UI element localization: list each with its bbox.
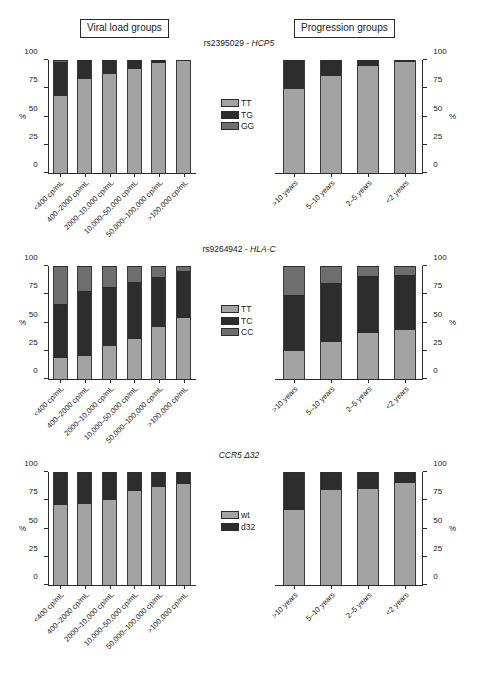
legend-item[interactable]: d32 <box>221 523 255 532</box>
stacked-bar[interactable] <box>320 266 342 379</box>
bar-segment-tt[interactable] <box>177 61 190 173</box>
bar-segment-tt[interactable] <box>152 327 165 379</box>
bar-segment-tc[interactable] <box>128 282 141 340</box>
bar-segment-tt[interactable] <box>358 333 378 379</box>
bar-segment-cc[interactable] <box>152 266 165 277</box>
bar-segment-tc[interactable] <box>103 287 116 346</box>
bar-segment-tc[interactable] <box>54 304 67 357</box>
stacked-bar[interactable] <box>102 60 117 173</box>
stacked-bar[interactable] <box>283 266 305 379</box>
legend-item[interactable]: GG <box>221 122 254 131</box>
stacked-bar[interactable] <box>320 60 342 173</box>
bar-segment-cc[interactable] <box>103 266 116 287</box>
bar-segment-tt[interactable] <box>103 74 116 173</box>
stacked-bar[interactable] <box>151 60 166 173</box>
bar-segment-tt[interactable] <box>177 318 190 379</box>
bar-segment-cc[interactable] <box>128 266 141 282</box>
bar-segment-d32[interactable] <box>395 472 415 483</box>
bar-segment-d32[interactable] <box>54 472 67 505</box>
legend-item[interactable]: wt <box>221 511 255 520</box>
bar-segment-tt[interactable] <box>54 96 67 173</box>
stacked-bar[interactable] <box>77 266 92 379</box>
bar-segment-wt[interactable] <box>103 500 116 585</box>
bar-segment-tc[interactable] <box>321 283 341 342</box>
bar-segment-tg[interactable] <box>321 60 341 76</box>
bar-segment-tc[interactable] <box>177 271 190 318</box>
bar-segment-tc[interactable] <box>152 277 165 327</box>
bar-segment-tc[interactable] <box>284 295 304 350</box>
stacked-bar[interactable] <box>394 60 416 173</box>
bar-segment-tc[interactable] <box>78 291 91 357</box>
bar-segment-tt[interactable] <box>128 339 141 379</box>
stacked-bar[interactable] <box>102 472 117 585</box>
legend-item[interactable]: TT <box>221 305 253 314</box>
stacked-bar[interactable] <box>151 266 166 379</box>
stacked-bar[interactable] <box>77 60 92 173</box>
bar-segment-tt[interactable] <box>103 346 116 379</box>
bar-segment-wt[interactable] <box>152 487 165 585</box>
stacked-bar[interactable] <box>394 266 416 379</box>
bar-segment-tt[interactable] <box>284 89 304 173</box>
legend-item[interactable]: CC <box>221 328 253 337</box>
stacked-bar[interactable] <box>357 266 379 379</box>
bar-segment-d32[interactable] <box>284 472 304 510</box>
stacked-bar[interactable] <box>357 60 379 173</box>
bar-segment-d32[interactable] <box>103 472 116 500</box>
stacked-bar[interactable] <box>176 60 191 173</box>
bar-segment-wt[interactable] <box>54 505 67 585</box>
bar-segment-d32[interactable] <box>78 472 91 504</box>
stacked-bar[interactable] <box>53 60 68 173</box>
bar-segment-tc[interactable] <box>395 275 415 330</box>
bar-segment-tt[interactable] <box>78 356 91 379</box>
bar-segment-tt[interactable] <box>321 76 341 173</box>
bar-segment-tt[interactable] <box>358 66 378 173</box>
bar-segment-wt[interactable] <box>321 490 341 585</box>
bar-segment-tt[interactable] <box>395 330 415 379</box>
bar-segment-tg[interactable] <box>103 61 116 73</box>
bar-segment-tt[interactable] <box>321 342 341 379</box>
stacked-bar[interactable] <box>127 472 142 585</box>
stacked-bar[interactable] <box>77 472 92 585</box>
bar-segment-wt[interactable] <box>177 484 190 585</box>
bar-segment-tg[interactable] <box>284 60 304 89</box>
bar-segment-wt[interactable] <box>358 489 378 585</box>
stacked-bar[interactable] <box>283 472 305 585</box>
stacked-bar[interactable] <box>176 472 191 585</box>
bar-segment-tt[interactable] <box>395 62 415 173</box>
bar-segment-wt[interactable] <box>395 483 415 585</box>
bar-segment-cc[interactable] <box>358 266 378 276</box>
stacked-bar[interactable] <box>127 60 142 173</box>
stacked-bar[interactable] <box>151 472 166 585</box>
bar-segment-d32[interactable] <box>152 472 165 487</box>
stacked-bar[interactable] <box>127 266 142 379</box>
legend-item[interactable]: TC <box>221 317 253 326</box>
bar-segment-cc[interactable] <box>78 266 91 291</box>
bar-segment-cc[interactable] <box>54 266 67 304</box>
stacked-bar[interactable] <box>320 472 342 585</box>
stacked-bar[interactable] <box>53 472 68 585</box>
bar-segment-tt[interactable] <box>284 351 304 379</box>
stacked-bar[interactable] <box>176 266 191 379</box>
bar-segment-tt[interactable] <box>152 63 165 173</box>
bar-segment-wt[interactable] <box>128 491 141 585</box>
bar-segment-tc[interactable] <box>358 276 378 333</box>
bar-segment-tt[interactable] <box>78 79 91 173</box>
legend-item[interactable]: TG <box>221 111 254 120</box>
stacked-bar[interactable] <box>102 266 117 379</box>
bar-segment-wt[interactable] <box>284 510 304 585</box>
stacked-bar[interactable] <box>283 60 305 173</box>
bar-segment-cc[interactable] <box>395 266 415 275</box>
bar-segment-tt[interactable] <box>128 69 141 173</box>
stacked-bar[interactable] <box>357 472 379 585</box>
legend-item[interactable]: TT <box>221 99 254 108</box>
bar-segment-tt[interactable] <box>54 358 67 379</box>
bar-segment-d32[interactable] <box>358 472 378 489</box>
bar-segment-d32[interactable] <box>177 472 190 484</box>
bar-segment-wt[interactable] <box>78 504 91 585</box>
bar-segment-cc[interactable] <box>284 266 304 295</box>
bar-segment-d32[interactable] <box>128 472 141 491</box>
stacked-bar[interactable] <box>53 266 68 379</box>
bar-segment-tg[interactable] <box>54 62 67 96</box>
stacked-bar[interactable] <box>394 472 416 585</box>
bar-segment-d32[interactable] <box>321 472 341 490</box>
